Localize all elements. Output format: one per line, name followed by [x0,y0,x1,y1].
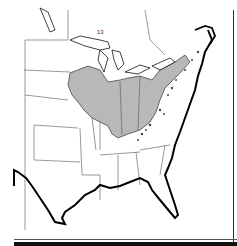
eastern-us-map: 13 [0,0,237,246]
shaded-region [68,55,190,138]
frame-bottom-border [14,239,237,240]
bottom-rule [14,242,237,246]
frame-right-border [233,10,234,242]
lake-marker-label: 13 [97,29,104,35]
great-lakes [40,8,175,74]
northeast-coast [195,26,215,44]
